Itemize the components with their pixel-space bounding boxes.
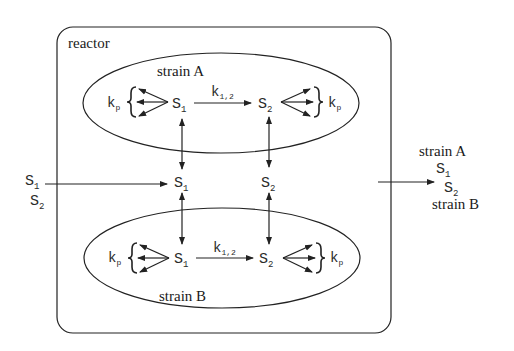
inflow-s2: S2 bbox=[30, 193, 44, 212]
strain-a-rate-label: k1,2 bbox=[211, 84, 234, 101]
svg-text:S1: S1 bbox=[436, 161, 450, 180]
strain-b-s2: S2 bbox=[259, 251, 273, 270]
strain-b-rate-label: k1,2 bbox=[213, 240, 236, 257]
svg-text:S1: S1 bbox=[174, 175, 188, 194]
svg-text:S2: S2 bbox=[259, 251, 273, 270]
reactor-diagram: reactor strain A S1 S2 k1,2 kp kp S1 S2 … bbox=[0, 0, 514, 351]
outflow-strain-a: strain A bbox=[419, 143, 466, 159]
strain-a-right-product-fan bbox=[281, 87, 323, 117]
strain-b-right-product-fan bbox=[283, 243, 325, 273]
outflow-strain-b: strain B bbox=[432, 196, 479, 212]
svg-text:S2: S2 bbox=[258, 96, 272, 115]
strain-b-kp-right: kp bbox=[330, 250, 343, 267]
svg-text:S1: S1 bbox=[25, 173, 39, 192]
svg-text:S1: S1 bbox=[174, 251, 188, 270]
strain-a-kp-left: kp bbox=[107, 95, 120, 112]
medium-s2: S2 bbox=[261, 175, 275, 194]
strain-a-left-product-fan bbox=[127, 87, 168, 117]
strain-b-kp-left: kp bbox=[108, 250, 121, 267]
inflow-s1: S1 bbox=[25, 173, 39, 192]
svg-text:S2: S2 bbox=[261, 175, 275, 194]
svg-text:S2: S2 bbox=[30, 193, 44, 212]
strain-a-s1: S1 bbox=[172, 96, 186, 115]
medium-s1: S1 bbox=[174, 175, 188, 194]
svg-text:S1: S1 bbox=[172, 96, 186, 115]
strain-b-s1: S1 bbox=[174, 251, 188, 270]
strain-a-kp-right: kp bbox=[328, 95, 341, 112]
strain-a-label: strain A bbox=[157, 63, 204, 79]
outflow-s1: S1 bbox=[436, 161, 450, 180]
strain-b-left-product-fan bbox=[128, 243, 169, 273]
reactor-box bbox=[57, 27, 391, 333]
strain-a-s2: S2 bbox=[258, 96, 272, 115]
strain-b-label: strain B bbox=[159, 288, 206, 304]
reactor-label: reactor bbox=[68, 35, 110, 51]
